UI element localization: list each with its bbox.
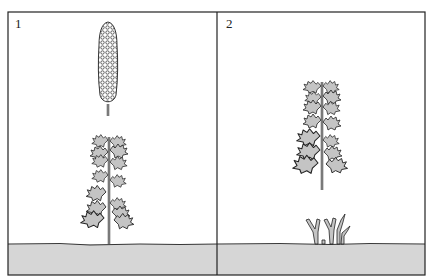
panel-number-1: 1 <box>15 16 22 32</box>
two-panel-diagram: 1 2 <box>0 0 429 280</box>
flower-spike <box>98 22 117 116</box>
leafy-stem-panel-2 <box>293 81 348 190</box>
leafy-stem-panel-1 <box>81 135 134 244</box>
new-shoots <box>306 214 350 244</box>
panel-number-2: 2 <box>226 16 233 32</box>
